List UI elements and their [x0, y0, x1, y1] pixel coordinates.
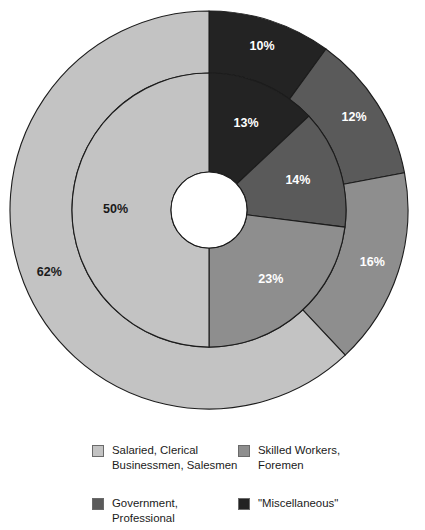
slice-percent-label: 13% [234, 116, 259, 130]
slice-percent-label: 14% [285, 173, 310, 187]
legend-swatch-skilled-workers [238, 445, 250, 457]
slice-percent-label: 62% [37, 265, 62, 279]
legend-label-skilled-workers: Skilled Workers, Foremen [258, 443, 340, 472]
slice-percent-label: 16% [360, 255, 385, 269]
slice-percent-label: 50% [103, 202, 128, 216]
slice-percent-label: 10% [250, 39, 275, 53]
legend-swatch-salaried [92, 445, 104, 457]
legend-label-government: Government, Professional [112, 496, 178, 525]
legend-item-government[interactable]: Government, Professional [92, 496, 238, 525]
legend-label-salaried: Salaried, Clerical Businessmen, Salesmen [112, 443, 237, 472]
legend-item-salaried[interactable]: Salaried, Clerical Businessmen, Salesmen [92, 443, 238, 472]
slice-percent-label: 12% [341, 110, 366, 124]
legend-item-skilled-workers[interactable]: Skilled Workers, Foremen [238, 443, 402, 472]
chart-legend: Salaried, Clerical Businessmen, Salesmen… [92, 443, 402, 525]
donut-chart-svg: 10%12%16%62% 13%14%23%50% [0, 0, 425, 430]
donut-chart: 10%12%16%62% 13%14%23%50% [0, 0, 425, 430]
legend-item-miscellaneous[interactable]: "Miscellaneous" [238, 496, 402, 525]
legend-swatch-miscellaneous [238, 498, 250, 510]
slice-percent-label: 23% [258, 272, 283, 286]
donut-center-hub [171, 172, 247, 248]
legend-swatch-government [92, 498, 104, 510]
legend-label-miscellaneous: "Miscellaneous" [258, 496, 338, 511]
